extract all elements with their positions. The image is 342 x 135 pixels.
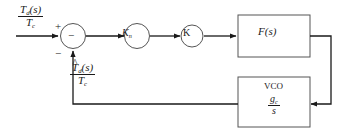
input-denominator-subscript: c bbox=[32, 22, 35, 29]
block-diagram-figure: Td(s) Tc + − − ^Td(s) Tc Kn K F(s) VCO g… bbox=[0, 0, 342, 135]
diagram-canvas bbox=[0, 0, 342, 135]
input-signal-label: Td(s) Tc bbox=[18, 4, 43, 28]
feedback-numerator-arg: (s) bbox=[82, 61, 94, 73]
feedback-signal-label: ^Td(s) Tc bbox=[70, 62, 95, 86]
summing-junction-inner-symbol: − bbox=[68, 30, 74, 41]
vco-gain-label: gc s bbox=[268, 94, 280, 116]
summing-junction-plus-sign: + bbox=[55, 21, 61, 32]
gain-kn-subscript: n bbox=[129, 32, 132, 39]
vco-label: VCO bbox=[264, 82, 283, 91]
summing-junction-minus-sign: − bbox=[55, 48, 61, 59]
gain-k-label: K bbox=[183, 28, 190, 38]
feedback-denominator-subscript: c bbox=[84, 80, 87, 87]
filter-fs-label: F(s) bbox=[258, 26, 276, 37]
input-numerator-arg: (s) bbox=[30, 3, 42, 15]
gain-kn-label: Kn bbox=[122, 28, 132, 38]
input-numerator-subscript: d bbox=[26, 9, 29, 16]
feedback-hat-accent: ^ bbox=[73, 58, 78, 69]
feedback-numerator-subscript: d bbox=[78, 67, 81, 74]
wire-fs-to-vco bbox=[310, 36, 331, 104]
gain-kn-text: K bbox=[122, 27, 129, 38]
vco-gain-denominator: s bbox=[272, 105, 276, 116]
wire-vco-to-sum bbox=[73, 51, 238, 104]
vco-gain-numerator-subscript: c bbox=[275, 98, 278, 105]
